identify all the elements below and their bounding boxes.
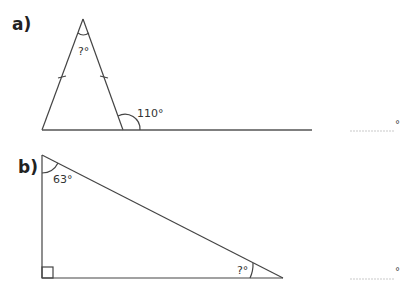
- exterior-angle-label: 110°: [137, 107, 164, 120]
- triangle-b-hypotenuse: [42, 155, 283, 278]
- bottom-right-angle-arc: [250, 263, 253, 278]
- right-triangle: [42, 155, 283, 278]
- right-angle-marker: [42, 267, 53, 278]
- isosceles-triangle: [42, 19, 312, 130]
- apex-angle-label: ?°: [78, 45, 89, 58]
- bottom-right-angle-label: ?°: [237, 264, 248, 277]
- answer-unit-a: °: [395, 119, 400, 130]
- question-b-label: b): [18, 157, 38, 177]
- apex-angle-arc: [78, 33, 89, 35]
- triangle-a-left-side: [42, 19, 83, 130]
- question-a-label: a): [12, 14, 31, 34]
- top-angle-label: 63°: [53, 173, 73, 186]
- worksheet-figure: a) ?° 110° ° b) 63° ?° °: [0, 0, 402, 297]
- top-angle-arc: [42, 163, 58, 173]
- triangle-a-right-side: [83, 19, 123, 130]
- answer-unit-b: °: [395, 266, 400, 277]
